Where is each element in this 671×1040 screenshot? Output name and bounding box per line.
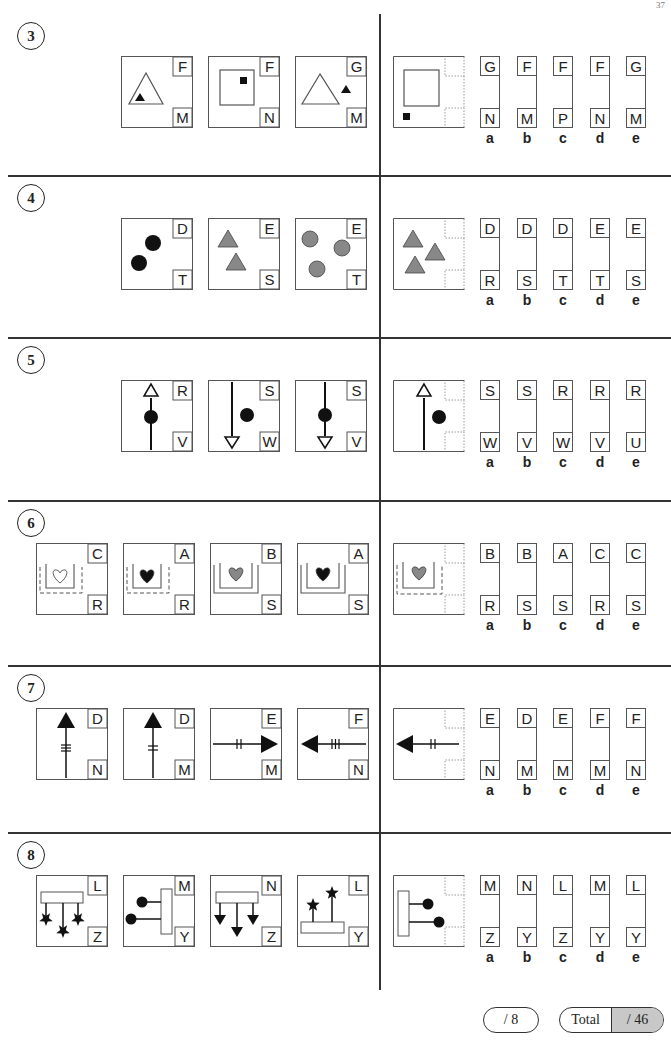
answer-option-b[interactable]: D S b: [517, 218, 537, 318]
answer-option-b[interactable]: S V b: [517, 380, 537, 480]
answer-option-a[interactable]: E N a: [480, 708, 500, 808]
answer-option-c[interactable]: F P c: [553, 56, 573, 156]
option-letter: e: [626, 617, 646, 633]
example-figure: FM: [121, 56, 193, 128]
option-bottom-letter: V: [522, 434, 532, 451]
up-arrow-dot-beside-icon: [393, 380, 465, 452]
answer-option-e[interactable]: F N e: [626, 708, 646, 808]
answer-option-a[interactable]: G N a: [480, 56, 500, 156]
answer-option-d[interactable]: F N d: [590, 56, 610, 156]
figure-bottom-letter: N: [264, 109, 275, 126]
total-score-box: Total / 46: [559, 1007, 664, 1033]
vertical-bar-two-dots-right-icon: [393, 875, 465, 947]
three-grey-triangles-icon: [393, 218, 465, 290]
figure-top-letter: F: [354, 710, 363, 727]
figure-top-letter: E: [266, 710, 276, 727]
up-arrow-three-ticks-icon: DN: [36, 708, 108, 780]
option-top-letter: E: [558, 710, 568, 727]
down-arrow-dot-beside-icon: SW: [208, 380, 280, 452]
option-top-letter: M: [594, 877, 607, 894]
answer-option-a[interactable]: M Z a: [480, 875, 500, 975]
option-bottom-letter: T: [595, 272, 604, 289]
up-arrow-two-ticks-icon: DM: [123, 708, 195, 780]
total-score: / 46: [612, 1008, 663, 1032]
option-top-letter: R: [595, 382, 606, 399]
answer-option-a[interactable]: B R a: [480, 543, 500, 643]
answer-option-d[interactable]: C R d: [590, 543, 610, 643]
option-bottom-letter: N: [485, 110, 496, 127]
grey-heart-dashed-outer-icon: [393, 543, 465, 615]
example-figure: DT: [121, 218, 193, 290]
option-letter: a: [480, 617, 500, 633]
example-figure: DN: [36, 708, 108, 780]
question-number: 4: [17, 184, 45, 212]
answer-option-b[interactable]: F M b: [517, 56, 537, 156]
answer-option-a[interactable]: S W a: [480, 380, 500, 480]
answer-option-c[interactable]: A S c: [553, 543, 573, 643]
option-letter: b: [517, 949, 537, 965]
option-top-letter: E: [595, 220, 605, 237]
figure-top-letter: M: [178, 877, 191, 894]
answer-option-e[interactable]: C S e: [626, 543, 646, 643]
option-bottom-letter: S: [522, 272, 532, 289]
grey-heart-solid-outer-icon: BS: [210, 543, 282, 615]
option-bottom-letter: Z: [558, 929, 567, 946]
answer-option-b[interactable]: N Y b: [517, 875, 537, 975]
figure-bottom-letter: M: [350, 109, 363, 126]
option-bottom-letter: R: [595, 597, 606, 614]
answer-option-e[interactable]: G M e: [626, 56, 646, 156]
figure-top-letter: C: [92, 545, 103, 562]
option-top-letter: D: [522, 710, 533, 727]
option-top-letter: B: [485, 545, 495, 562]
figure-bottom-letter: M: [176, 109, 189, 126]
question-figure: [393, 543, 465, 615]
answer-option-c[interactable]: R W c: [553, 380, 573, 480]
figure-top-letter: G: [351, 58, 363, 75]
figure-bottom-letter: R: [179, 596, 190, 613]
option-bottom-letter: S: [558, 597, 568, 614]
answer-option-c[interactable]: D T c: [553, 218, 573, 318]
answer-option-d[interactable]: E T d: [590, 218, 610, 318]
option-letter: d: [590, 782, 610, 798]
option-letter: c: [553, 617, 573, 633]
option-top-letter: F: [631, 710, 640, 727]
option-top-letter: A: [558, 545, 568, 562]
option-top-letter: B: [522, 545, 532, 562]
option-top-letter: C: [595, 545, 606, 562]
two-grey-triangles-icon: ES: [208, 218, 280, 290]
option-bottom-letter: P: [558, 110, 568, 127]
example-figure: DM: [123, 708, 195, 780]
black-heart-dashed-outer-icon: AR: [123, 543, 195, 615]
total-label: Total: [560, 1008, 612, 1032]
answer-option-c[interactable]: E M c: [553, 708, 573, 808]
option-top-letter: F: [595, 58, 604, 75]
answer-option-b[interactable]: D M b: [517, 708, 537, 808]
example-figure: SW: [208, 380, 280, 452]
option-letter: b: [517, 617, 537, 633]
option-bottom-letter: V: [595, 434, 605, 451]
option-top-letter: D: [558, 220, 569, 237]
answer-option-a[interactable]: D R a: [480, 218, 500, 318]
answer-option-c[interactable]: L Z c: [553, 875, 573, 975]
option-bottom-letter: W: [483, 434, 498, 451]
answer-option-d[interactable]: M Y d: [590, 875, 610, 975]
figure-bottom-letter: R: [92, 596, 103, 613]
answer-option-e[interactable]: E S e: [626, 218, 646, 318]
figure-bottom-letter: S: [264, 271, 274, 288]
option-bottom-letter: Y: [595, 929, 605, 946]
answer-option-d[interactable]: F M d: [590, 708, 610, 808]
figure-bottom-letter: T: [178, 271, 187, 288]
figure-bottom-letter: T: [352, 271, 361, 288]
answer-option-b[interactable]: B S b: [517, 543, 537, 643]
option-top-letter: G: [484, 58, 496, 75]
option-top-letter: F: [558, 58, 567, 75]
answer-option-e[interactable]: L Y e: [626, 875, 646, 975]
option-bottom-letter: R: [485, 272, 496, 289]
question-figure: [393, 56, 465, 128]
answer-option-e[interactable]: R U e: [626, 380, 646, 480]
option-letter: b: [517, 782, 537, 798]
answer-option-d[interactable]: R V d: [590, 380, 610, 480]
option-top-letter: S: [522, 382, 532, 399]
figure-top-letter: L: [354, 877, 362, 894]
option-bottom-letter: Y: [631, 929, 641, 946]
